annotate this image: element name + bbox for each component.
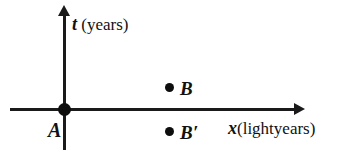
t-axis-unit: (years) bbox=[81, 15, 128, 34]
event-b-dot bbox=[165, 83, 174, 92]
origin-point-label: A bbox=[48, 120, 62, 140]
x-axis-variable: x bbox=[228, 118, 237, 138]
t-axis-line bbox=[63, 14, 66, 150]
t-axis-arrow-icon bbox=[58, 5, 70, 16]
t-axis-label: t (years) bbox=[72, 15, 128, 33]
x-axis-unit: (lightyears) bbox=[237, 119, 315, 138]
event-b-label: B bbox=[180, 79, 193, 98]
event-b-prime-dot bbox=[165, 127, 174, 136]
t-axis-variable: t bbox=[72, 14, 77, 34]
x-axis-label: x(lightyears) bbox=[228, 119, 315, 137]
origin-point-dot bbox=[58, 103, 71, 116]
spacetime-diagram: A B B′ t (years) x(lightyears) bbox=[0, 0, 340, 160]
x-axis-line bbox=[10, 108, 298, 111]
x-axis-arrow-icon bbox=[294, 103, 305, 115]
event-b-prime-label: B′ bbox=[180, 123, 199, 142]
